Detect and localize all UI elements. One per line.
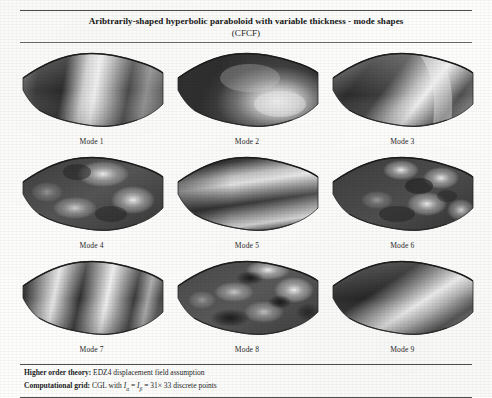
figure-title: Aribtrarily-shaped hyperbolic paraboloid… xyxy=(20,15,472,27)
header-rule-bottom xyxy=(20,42,472,43)
surface-plot-mode-1 xyxy=(17,48,167,134)
mode-label-6: Mode 6 xyxy=(390,241,414,250)
figure-footer: Higher order theory: EDZ4 displacement f… xyxy=(20,364,472,398)
mode-panel-7: Mode 7 xyxy=(14,256,169,360)
footer-line-grid: Computational grid: CGL with Iα = Iβ = 3… xyxy=(24,381,472,394)
surface-plot-mode-7 xyxy=(17,256,167,342)
grid-label: Computational grid: xyxy=(24,381,90,390)
surface-plot-mode-8 xyxy=(172,256,322,342)
mode-label-1: Mode 1 xyxy=(80,137,104,146)
grid-value-pre: CGL with xyxy=(92,381,122,390)
mode-label-3: Mode 3 xyxy=(390,137,414,146)
surface-plot-mode-4 xyxy=(17,152,167,238)
mode-label-9: Mode 9 xyxy=(390,345,414,354)
figure-subtitle: (CFCF) xyxy=(20,27,472,39)
surface-plot-mode-9 xyxy=(327,256,477,342)
theory-label: Higher order theory: xyxy=(24,368,91,377)
title-wrap: Aribtrarily-shaped hyperbolic paraboloid… xyxy=(20,11,472,42)
surface-plot-mode-6 xyxy=(327,152,477,238)
mode-panel-3: Mode 3 xyxy=(325,48,480,152)
footer-rule-bottom xyxy=(20,397,472,398)
mode-label-8: Mode 8 xyxy=(235,345,259,354)
footer-line-theory: Higher order theory: EDZ4 displacement f… xyxy=(24,368,472,379)
mode-panel-8: Mode 8 xyxy=(169,256,324,360)
mode-label-5: Mode 5 xyxy=(235,241,259,250)
surface-plot-mode-2 xyxy=(172,48,322,134)
figure-header: Aribtrarily-shaped hyperbolic paraboloid… xyxy=(20,10,472,43)
grid-eq-1: = xyxy=(131,381,135,390)
mode-panel-4: Mode 4 xyxy=(14,152,169,256)
mode-shape-grid: Mode 1 xyxy=(14,48,480,360)
surface-plot-mode-5 xyxy=(172,152,322,238)
grid-var-beta: Iβ xyxy=(137,381,142,390)
grid-var-alpha: Iα xyxy=(124,381,129,390)
mode-panel-5: Mode 5 xyxy=(169,152,324,256)
mode-panel-2: Mode 2 xyxy=(169,48,324,152)
surface-plot-mode-3 xyxy=(327,48,477,134)
mode-panel-9: Mode 9 xyxy=(325,256,480,360)
mode-label-4: Mode 4 xyxy=(80,241,104,250)
grid-value-post: 31× 33 discrete points xyxy=(150,381,217,390)
theory-value: EDZ4 displacement field assumption xyxy=(93,368,204,377)
footer-body: Higher order theory: EDZ4 displacement f… xyxy=(20,365,472,397)
grid-eq-2: = xyxy=(144,381,148,390)
mode-panel-6: Mode 6 xyxy=(325,152,480,256)
mode-label-7: Mode 7 xyxy=(80,345,104,354)
mode-panel-1: Mode 1 xyxy=(14,48,169,152)
mode-label-2: Mode 2 xyxy=(235,137,259,146)
